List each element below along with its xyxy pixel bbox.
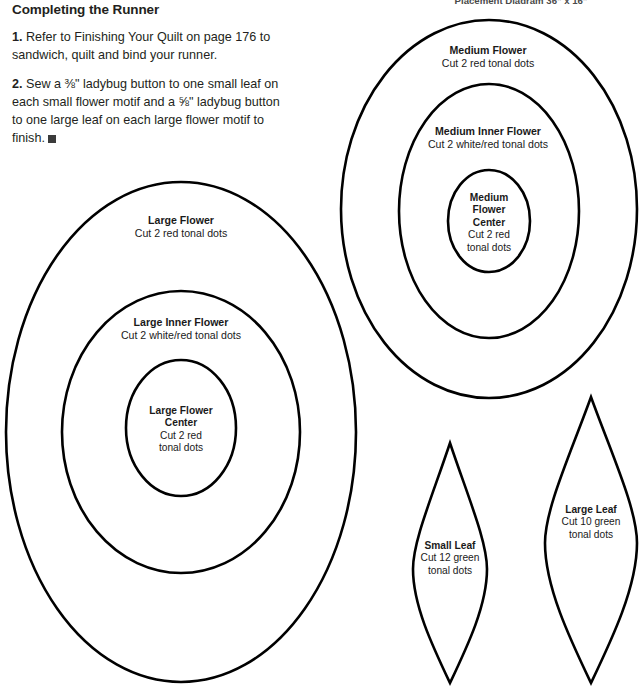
medium-flower-outline [341,20,637,398]
instructions-block: Completing the Runner 1. Refer to Finish… [12,2,280,158]
large-inner-flower-outline [62,291,300,573]
instruction-step-1: 1. Refer to Finishing Your Quilt on page… [12,29,280,65]
large-leaf-outline [545,397,637,683]
end-of-article-mark [48,135,56,143]
instruction-step-2: 2. Sew a ⅜" ladybug button to one small … [12,76,280,148]
step-1-number: 1. [12,30,23,44]
large-flower-outline [6,182,356,682]
large-leaf-template-shape [538,391,644,689]
large-flower-center-outline [126,360,236,496]
step-1-text: Refer to Finishing Your Quilt on page 17… [12,30,270,62]
section-heading: Completing the Runner [12,2,280,18]
medium-flower-template-group [335,10,644,410]
large-flower-template-group [0,170,370,690]
placement-diagram-caption: Placement Diagram 36" x 16" [406,0,636,4]
medium-inner-flower-outline [399,84,579,338]
small-leaf-outline [413,443,487,683]
step-2-number: 2. [12,77,23,91]
medium-flower-center-outline [448,170,530,272]
small-leaf-template-shape [402,437,498,689]
